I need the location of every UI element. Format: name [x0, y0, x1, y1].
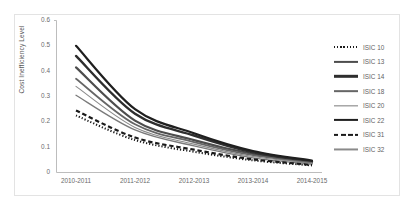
legend-label: ISIC 13: [363, 58, 384, 65]
legend-label: ISIC 22: [363, 117, 384, 124]
legend-item-isic-18[interactable]: ISIC 18: [334, 84, 404, 99]
legend-label: ISIC 10: [363, 44, 384, 51]
legend-item-isic-13[interactable]: ISIC 13: [334, 55, 404, 70]
series-line-isic-32: [76, 86, 312, 163]
legend-item-isic-22[interactable]: ISIC 22: [334, 113, 404, 128]
legend-label: ISIC 14: [363, 73, 384, 80]
legend-label: ISIC 20: [363, 102, 384, 109]
legend-item-isic-32[interactable]: ISIC 32: [334, 142, 404, 157]
legend-item-isic-14[interactable]: ISIC 14: [334, 69, 404, 84]
legend-item-isic-10[interactable]: ISIC 10: [334, 40, 404, 55]
series-line-isic-20: [76, 95, 312, 164]
legend-item-isic-31[interactable]: ISIC 31: [334, 128, 404, 143]
legend-label: ISIC 18: [363, 88, 384, 95]
series-line-isic-13: [76, 67, 312, 162]
legend-label: ISIC 31: [363, 131, 384, 138]
legend-label: ISIC 32: [363, 146, 384, 153]
line-chart: Cost Inefficiency Level 00.10.20.30.40.5…: [0, 0, 410, 212]
legend-item-isic-20[interactable]: ISIC 20: [334, 98, 404, 113]
series-line-isic-22: [76, 46, 312, 161]
chart-legend: ISIC 10ISIC 13ISIC 14ISIC 18ISIC 20ISIC …: [334, 40, 404, 157]
